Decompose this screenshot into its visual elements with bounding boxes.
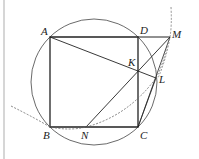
label-a: A <box>40 25 48 37</box>
label-m: M <box>171 28 182 40</box>
segment-al <box>50 37 156 78</box>
label-n: N <box>80 129 89 141</box>
label-k: K <box>127 56 136 68</box>
label-c: C <box>140 129 148 141</box>
diagram-frame: A D M K L B N C <box>0 0 199 159</box>
label-d: D <box>139 24 148 36</box>
label-b: B <box>43 129 50 141</box>
dashed-arc-bnl <box>11 46 167 129</box>
square-abcd <box>50 37 138 127</box>
label-l: L <box>158 73 165 85</box>
geometry-diagram: A D M K L B N C <box>0 0 199 159</box>
